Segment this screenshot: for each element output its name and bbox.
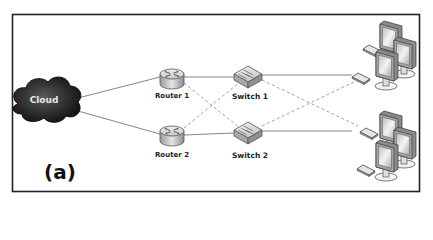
switch-1-label: Switch 1 — [232, 92, 268, 101]
cloud-label: Cloud — [30, 95, 59, 105]
figure-caption: (a) — [44, 160, 76, 184]
router-2-label: Router 2 — [155, 151, 189, 159]
router-2-icon — [160, 126, 184, 146]
router-1-label: Router 1 — [155, 92, 189, 100]
switch-2-label: Switch 2 — [232, 151, 268, 160]
router-1-icon — [160, 69, 184, 89]
